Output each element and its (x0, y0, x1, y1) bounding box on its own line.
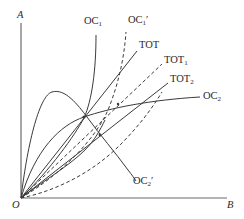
intersection-point-2 (99, 134, 102, 137)
label-oc2-prime: OC2′ (133, 176, 153, 188)
label-tot: TOT (139, 40, 159, 51)
label-tot2: TOT2 (170, 74, 194, 86)
label-tot1: TOT1 (164, 55, 188, 67)
label-oc1-prime: OC1′ (128, 15, 148, 27)
y-axis-label: A (17, 10, 23, 21)
intersection-point-1 (82, 115, 85, 118)
intersection-point-3 (117, 103, 119, 105)
offer-curve-diagram (0, 0, 244, 219)
origin-label: O (12, 200, 20, 211)
label-oc2: OC2 (203, 91, 221, 103)
label-oc1: OC1 (84, 16, 102, 28)
curve-lower-convex (21, 120, 105, 198)
curve-oc1-prime (21, 32, 126, 198)
x-axis-label: B (227, 200, 233, 211)
